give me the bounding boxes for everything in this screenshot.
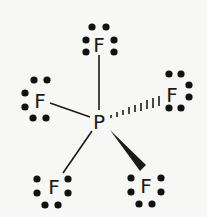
bond-p-f-left (50, 103, 90, 117)
atom-f-top: F (93, 33, 105, 57)
atom-f-bottom-right: F (140, 174, 152, 198)
atom-p: P (93, 110, 105, 134)
hashed-bond-p-f-right (111, 96, 159, 118)
atom-f-bottom-left: F (48, 175, 60, 199)
atom-f-left: F (34, 89, 46, 113)
atom-f-right: F (166, 83, 178, 107)
pf5-lewis-structure: P F F F F F (0, 0, 207, 217)
wedge-bond-p-f-bottom-right (110, 130, 146, 171)
bond-p-f-bottom-left (63, 131, 92, 173)
